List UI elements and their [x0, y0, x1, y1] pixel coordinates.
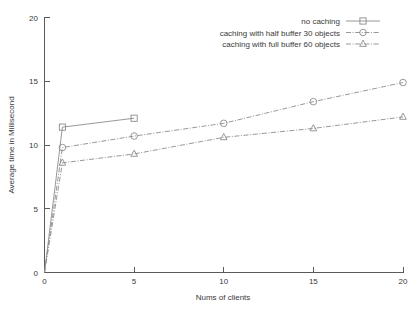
series-2 [45, 113, 407, 272]
line-chart-plot: 0 5 10 15 20 0 5 10 15 20 Nums of client… [0, 0, 418, 312]
circle-marker-icon [400, 79, 407, 86]
triangle-marker-icon [310, 125, 317, 131]
x-tick-label-10: 10 [219, 277, 228, 286]
triangle-marker-icon [360, 40, 367, 46]
legend-label-1: caching with half buffer 30 objects [220, 29, 340, 38]
x-tick-label-5: 5 [132, 277, 137, 286]
series-line [45, 83, 404, 273]
y-axis-ticks: 0 5 10 15 20 [29, 14, 50, 278]
y-tick-label-20: 20 [29, 14, 38, 23]
x-tick-label-20: 20 [399, 277, 408, 286]
x-tick-label-0: 0 [42, 277, 47, 286]
axes-group [45, 17, 404, 273]
series-layer [45, 79, 407, 272]
series-line [45, 118, 135, 272]
x-axis-ticks: 0 5 10 15 20 [42, 267, 408, 286]
y-tick-label-10: 10 [29, 141, 38, 150]
y-tick-label-5: 5 [34, 205, 39, 214]
legend-label-0: no caching [301, 17, 340, 26]
y-tick-label-15: 15 [29, 77, 38, 86]
chart-legend: no cachingcaching with half buffer 30 ob… [220, 17, 380, 49]
y-tick-label-0: 0 [34, 269, 39, 278]
chart-figure: 0 5 10 15 20 0 5 10 15 20 Nums of client… [0, 0, 418, 312]
x-tick-label-15: 15 [309, 277, 318, 286]
triangle-marker-icon [220, 134, 227, 140]
series-1 [45, 79, 407, 272]
x-axis-title: Nums of clients [196, 293, 251, 302]
series-0 [45, 115, 138, 272]
y-axis-title: Average time in Millisecond [7, 96, 16, 193]
triangle-marker-icon [400, 113, 407, 119]
series-line [45, 117, 404, 273]
legend-label-2: caching with full buffer 60 objects [222, 40, 340, 49]
